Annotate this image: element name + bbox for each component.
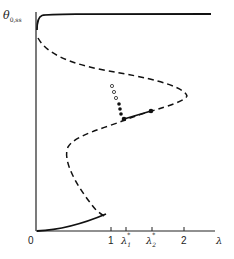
x-tick-2: 2 <box>181 236 187 246</box>
x-tick-1: 1 <box>108 236 114 246</box>
unstable-dashed-branch <box>38 38 187 216</box>
upper-stable-branch <box>37 14 211 30</box>
lambda1-star: * <box>127 231 130 238</box>
x-tick-lambda1-star: λ*1 <box>121 235 131 248</box>
filled-circle-markers <box>117 102 123 116</box>
lambda2-sub: 2 <box>152 241 156 248</box>
lambda1-sub: 1 <box>127 241 131 248</box>
segment-start-dot <box>122 117 127 122</box>
y-axis-label: θ0,ss <box>3 10 22 23</box>
lambda2-star: * <box>152 231 155 238</box>
y-label-sub: 0,ss <box>10 16 22 23</box>
bifurcation-chart <box>0 0 234 259</box>
x-tick-0: 0 <box>28 236 34 246</box>
lambda-segment <box>124 111 151 119</box>
x-axis-label: λ <box>216 236 222 246</box>
y-label-main: θ <box>3 9 10 22</box>
lower-stable-branch <box>37 214 106 231</box>
segment-end-dot <box>149 109 154 114</box>
open-circle-markers <box>110 84 117 99</box>
x-tick-lambda2-star: λ*2 <box>146 235 156 248</box>
